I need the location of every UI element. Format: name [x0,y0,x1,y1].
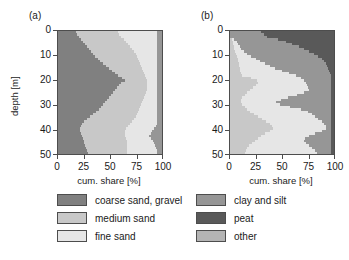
panel-a-x-axis-label: cum. share [%] [39,176,179,186]
legend-label-coarse_sand_gravel: coarse sand, gravel [95,195,182,206]
legend-swatch-medium_sand [57,212,87,224]
x-axis-tick-label: 25 [71,162,97,172]
y-axis-tick-label: 10 [197,50,223,60]
legend-label-medium_sand: medium sand [95,213,155,224]
x-axis-tick-label: 50 [269,162,295,172]
panel-b-x-axis-label: cum. share [%] [211,176,349,186]
y-axis-tick-label: 20 [25,75,51,85]
x-axis-tick-mark [334,155,335,159]
x-axis-tick-mark [229,155,230,159]
layer-segment [331,152,334,155]
x-axis-tick-label: 0 [44,162,70,172]
panels-container: (a) depth [m] cum. share [%] 01020304050… [0,0,349,186]
legend-item: peat [196,210,286,226]
layer-segment [88,152,126,155]
panel-a: (a) depth [m] cum. share [%] 01020304050… [0,0,175,186]
layer-segment [317,152,331,155]
legend-swatch-clay_and_silt [196,194,226,206]
y-axis-tick-mark [225,30,229,31]
layer-segment [230,152,245,155]
y-axis-tick-mark [225,105,229,106]
legend-item: coarse sand, gravel [57,192,182,208]
y-axis-tick-label: 10 [25,50,51,60]
legend-item: medium sand [57,210,182,226]
layer-segment [127,152,157,155]
legend-label-clay_and_silt: clay and silt [234,195,286,206]
stratigraphy-figure: (a) depth [m] cum. share [%] 01020304050… [0,0,349,260]
panel-b-plot-area [229,30,335,155]
depth-row [58,152,162,155]
y-axis-tick-label: 0 [197,25,223,35]
y-axis-tick-mark [53,55,57,56]
y-axis-tick-label: 20 [197,75,223,85]
panel-b: (b) cum. share [%] 010203040500255075100 [174,0,349,186]
y-axis-tick-mark [225,55,229,56]
x-axis-tick-mark [309,155,310,159]
y-axis-tick-label: 30 [25,100,51,110]
legend-swatch-coarse_sand_gravel [57,194,87,206]
y-axis-tick-label: 40 [197,125,223,135]
y-axis-tick-mark [53,130,57,131]
x-axis-tick-mark [110,155,111,159]
legend-item: fine sand [57,228,182,244]
x-axis-tick-label: 100 [150,162,176,172]
legend-label-other: other [234,231,257,242]
y-axis-tick-mark [225,80,229,81]
x-axis-tick-mark [57,155,58,159]
legend-item: clay and silt [196,192,286,208]
y-axis-tick-label: 40 [25,125,51,135]
y-axis-tick-label: 50 [25,150,51,160]
x-axis-tick-label: 50 [97,162,123,172]
y-axis-tick-mark [53,105,57,106]
y-axis-tick-label: 30 [197,100,223,110]
x-axis-tick-mark [256,155,257,159]
layer-segment [157,152,162,155]
panel-b-tag: (b) [201,10,213,21]
layer-segment [245,152,318,155]
panel-a-plot-area [57,30,163,155]
y-axis-tick-mark [53,80,57,81]
x-axis-tick-mark [162,155,163,159]
x-axis-tick-mark [137,155,138,159]
x-axis-tick-label: 75 [296,162,322,172]
x-axis-tick-label: 75 [124,162,150,172]
panel-a-y-axis-label: depth [m] [10,76,20,116]
depth-row [230,152,334,155]
y-axis-tick-label: 50 [197,150,223,160]
legend-label-peat: peat [234,213,253,224]
x-axis-tick-label: 25 [243,162,269,172]
y-axis-tick-mark [53,30,57,31]
legend: coarse sand, gravelmedium sandfine sand … [0,192,349,254]
legend-swatch-other [196,230,226,242]
x-axis-tick-label: 100 [322,162,348,172]
y-axis-tick-label: 0 [25,25,51,35]
legend-label-fine_sand: fine sand [95,231,136,242]
x-axis-tick-label: 0 [216,162,242,172]
legend-column-left: coarse sand, gravelmedium sandfine sand [57,192,182,246]
layer-segment [58,152,88,155]
panel-a-tag: (a) [29,10,41,21]
legend-item: other [196,228,286,244]
legend-column-right: clay and siltpeatother [196,192,286,246]
x-axis-tick-mark [282,155,283,159]
legend-swatch-fine_sand [57,230,87,242]
x-axis-tick-mark [84,155,85,159]
legend-swatch-peat [196,212,226,224]
y-axis-tick-mark [225,130,229,131]
